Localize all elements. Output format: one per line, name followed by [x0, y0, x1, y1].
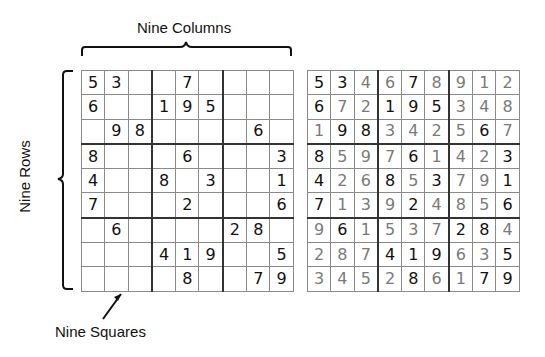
grid-cell: [247, 144, 270, 169]
grid-cell: 3: [331, 71, 354, 95]
grid-cell: [247, 71, 270, 95]
grid-cell: 9: [354, 144, 378, 169]
grid-cell: [199, 218, 223, 243]
grid-cell: [105, 144, 128, 169]
grid-cell: 3: [449, 95, 473, 119]
grid-cell: 6: [378, 71, 402, 95]
grid-cell: 7: [82, 193, 105, 218]
grid-cell: 5: [496, 243, 519, 267]
grid-cell: 6: [308, 95, 331, 119]
grid-cell: 6: [331, 218, 354, 243]
grid-cell: 6: [270, 193, 293, 218]
grid-cell: [247, 243, 270, 267]
grid-row: 726: [82, 193, 294, 218]
rows-brace-icon: [58, 71, 73, 289]
grid-cell: 6: [402, 144, 425, 169]
grid-cell: 6: [449, 243, 473, 267]
grid-cell: 7: [378, 144, 402, 169]
grid-row: 713924856: [308, 193, 520, 218]
grid-cell: 5: [378, 218, 402, 243]
grid-row: 287419635: [308, 243, 520, 267]
grid-cell: [128, 169, 152, 193]
grid-cell: 2: [308, 243, 331, 267]
grid-cell: 2: [223, 218, 247, 243]
grid-row: 6195: [82, 95, 294, 119]
grid-cell: 9: [105, 119, 128, 144]
grid-cell: 6: [82, 95, 105, 119]
grid-cell: [270, 218, 293, 243]
grid-cell: [152, 218, 176, 243]
grid-cell: [105, 267, 128, 291]
grid-cell: [152, 193, 176, 218]
grid-cell: [223, 119, 247, 144]
grid-cell: 4: [152, 243, 176, 267]
grid-cell: 2: [473, 144, 496, 169]
grid-cell: 5: [199, 95, 223, 119]
grid-cell: 5: [270, 243, 293, 267]
grid-cell: 8: [496, 95, 519, 119]
grid-cell: 4: [496, 218, 519, 243]
grid-row: 879: [82, 267, 294, 291]
grid-row: 198342567: [308, 119, 520, 144]
grid-row: 672195348: [308, 95, 520, 119]
grid-cell: 9: [425, 243, 449, 267]
grid-cell: 3: [270, 144, 293, 169]
grid-cell: 5: [331, 144, 354, 169]
grid-cell: 9: [199, 243, 223, 267]
grid-cell: 1: [308, 119, 331, 144]
grid-cell: 4: [402, 119, 425, 144]
grid-cell: 9: [308, 218, 331, 243]
grid-cell: [82, 119, 105, 144]
grid-cell: 3: [354, 193, 378, 218]
grid-cell: 7: [331, 95, 354, 119]
grid-cell: [247, 169, 270, 193]
grid-cell: [128, 71, 152, 95]
grid-cell: 4: [425, 193, 449, 218]
grid-cell: 7: [496, 119, 519, 144]
grid-cell: 4: [308, 169, 331, 193]
grid-row: 986: [82, 119, 294, 144]
grid-cell: 8: [152, 169, 176, 193]
grid-cell: 1: [425, 144, 449, 169]
grid-cell: [223, 71, 247, 95]
grid-row: 4831: [82, 169, 294, 193]
columns-brace-icon: [82, 42, 291, 56]
grid-cell: 2: [402, 193, 425, 218]
grid-cell: 6: [473, 119, 496, 144]
grid-cell: 6: [425, 267, 449, 291]
grid-row: 4195: [82, 243, 294, 267]
grid-cell: 4: [354, 71, 378, 95]
grid-cell: 1: [496, 169, 519, 193]
grid-cell: [199, 267, 223, 291]
grid-cell: 5: [425, 95, 449, 119]
grid-cell: [223, 144, 247, 169]
grid-cell: [270, 119, 293, 144]
grid-cell: 3: [308, 267, 331, 291]
grid-row: 426853791: [308, 169, 520, 193]
grid-cell: 7: [354, 243, 378, 267]
grid-cell: 9: [402, 95, 425, 119]
grid-cell: 8: [402, 267, 425, 291]
grid-row: 859761423: [308, 144, 520, 169]
grid-cell: [152, 144, 176, 169]
grid-cell: [223, 267, 247, 291]
grid-cell: [199, 71, 223, 95]
grid-cell: 1: [270, 169, 293, 193]
grid-cell: 9: [378, 193, 402, 218]
grid-cell: 8: [247, 218, 270, 243]
grid-cell: 8: [331, 243, 354, 267]
grid-cell: 3: [378, 119, 402, 144]
grid-cell: [105, 169, 128, 193]
grid-cell: 4: [449, 144, 473, 169]
grid-cell: 9: [270, 267, 293, 291]
grid-cell: [199, 193, 223, 218]
grid-cell: [247, 95, 270, 119]
grid-cell: 4: [473, 95, 496, 119]
grid-cell: 3: [496, 144, 519, 169]
grid-cell: [199, 119, 223, 144]
grid-cell: 1: [176, 243, 199, 267]
grid-cell: 8: [176, 267, 199, 291]
grid-cell: 2: [496, 71, 519, 95]
grid-cell: 5: [308, 71, 331, 95]
grid-cell: [128, 218, 152, 243]
